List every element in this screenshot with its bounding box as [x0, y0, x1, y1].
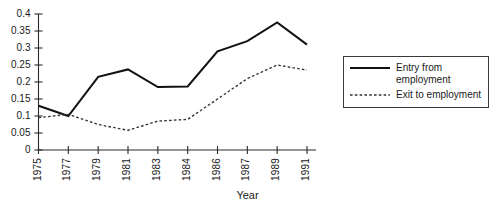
y-tick-label: 0.05	[0, 128, 31, 138]
legend-label-exit-to-employment: Exit to employment	[396, 89, 481, 101]
series-line-exit-to-employment	[39, 65, 308, 130]
chart-legend: Entry from employment Exit to employment	[343, 56, 489, 108]
y-tick-label: 0.15	[0, 94, 31, 104]
y-tick-label: 0.25	[0, 60, 31, 70]
x-tick-label: 1981	[122, 158, 132, 181]
x-axis-title: Year	[0, 189, 495, 201]
x-tick-label: 1987	[241, 158, 251, 181]
legend-item-exit-to-employment: Exit to employment	[350, 89, 481, 101]
chart-figure: 00.050.10.150.20.250.30.350.4 1975197719…	[0, 0, 495, 213]
y-tick-label: 0.3	[0, 43, 31, 53]
y-tick-label: 0.2	[0, 77, 31, 87]
legend-item-entry-from-employment: Entry from employment	[350, 62, 488, 85]
y-tick-label: 0.35	[0, 26, 31, 36]
y-tick-label: 0	[0, 145, 31, 155]
x-tick-label: 1989	[271, 158, 281, 181]
legend-swatch-solid-line-icon	[350, 62, 390, 74]
legend-label-entry-from-employment: Entry from employment	[396, 62, 488, 85]
x-tick-label: 1984	[182, 158, 192, 181]
x-tick-label: 1975	[33, 158, 43, 181]
x-tick-label: 1977	[62, 158, 72, 181]
x-tick-label: 1986	[212, 158, 222, 181]
y-tick-label: 0.4	[0, 9, 31, 19]
x-tick-label: 1983	[152, 158, 162, 181]
y-tick-label: 0.1	[0, 111, 31, 121]
x-tick-label: 1979	[92, 158, 102, 181]
legend-swatch-dashed-line-icon	[350, 89, 390, 101]
x-tick-label: 1991	[301, 158, 311, 181]
